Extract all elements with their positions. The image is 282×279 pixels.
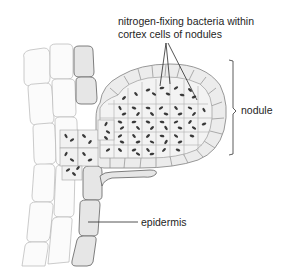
- nodule-bracket: [229, 60, 236, 155]
- epidermis-label: epidermis: [141, 216, 187, 228]
- bacteria-label-line2: cortex cells of nodules: [118, 28, 222, 40]
- root-nodule-diagram: nitrogen-fixing bacteria within cortex c…: [0, 0, 282, 279]
- root-hair: [100, 170, 156, 186]
- bacteria-label: nitrogen-fixing bacteria within cortex c…: [118, 15, 254, 40]
- bacteria-label-line1: nitrogen-fixing bacteria within: [118, 15, 254, 27]
- nodule-label: nodule: [241, 104, 273, 116]
